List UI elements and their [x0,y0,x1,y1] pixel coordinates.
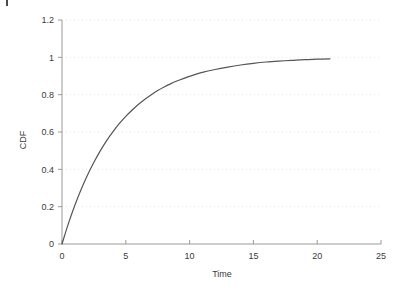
x-tick-labels-group: 0510152025 [59,251,386,261]
y-tick-label: 0.2 [41,202,54,212]
y-tick-label: 0.6 [41,127,54,137]
y-tick-label: 1 [49,53,54,63]
x-tick-label: 5 [123,251,128,261]
x-tick-label: 25 [376,251,386,261]
x-ticks-group [62,240,381,244]
x-tick-label: 0 [59,251,64,261]
x-tick-label: 10 [185,251,195,261]
chart-figure: 00.20.40.60.811.2 0510152025 CDF Time [0,0,408,293]
x-axis-title: Time [212,269,232,279]
cdf-curve [62,59,330,244]
x-tick-label: 15 [248,251,258,261]
y-ticks-group [58,20,62,244]
cdf-line-chart: 00.20.40.60.811.2 0510152025 CDF Time [0,0,408,293]
y-tick-label: 0.4 [41,165,54,175]
y-axis-title: CDF [18,130,28,149]
gridlines-group [62,20,381,207]
y-tick-label: 0.8 [41,90,54,100]
axis-lines-group [62,20,381,244]
y-tick-labels-group: 00.20.40.60.811.2 [41,15,54,249]
y-tick-label: 1.2 [41,15,54,25]
x-tick-label: 20 [312,251,322,261]
y-tick-label: 0 [49,239,54,249]
